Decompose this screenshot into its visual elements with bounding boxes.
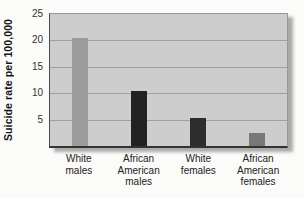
x-label-white-males: White males [49, 153, 109, 188]
x-label-text: African American females [233, 153, 283, 188]
x-axis-category-labels: White malesAfrican American malesWhite f… [49, 153, 288, 188]
y-tick-label-5: 5 [13, 114, 43, 126]
y-tick-label-25: 25 [13, 8, 43, 20]
bar-white-males [72, 38, 88, 146]
y-tick-label-20: 20 [13, 34, 43, 46]
y-axis-title: Suicide rate per 100,000 [1, 10, 15, 150]
plot-area [49, 13, 288, 148]
x-label-white-females: White females [169, 153, 229, 188]
suicide-rate-bar-chart: Suicide rate per 100,000 252015105 White… [0, 0, 304, 198]
bar-african-american-males [131, 91, 147, 146]
bar-white-females [190, 118, 206, 146]
x-label-text: African American males [114, 153, 164, 188]
x-label-african-american-females: African American females [228, 153, 288, 188]
x-label-text: White females [173, 153, 223, 188]
y-tick-label-10: 10 [13, 87, 43, 99]
x-label-african-american-males: African American males [109, 153, 169, 188]
bar-african-american-females [249, 133, 265, 146]
y-tick-label-15: 15 [13, 61, 43, 73]
x-label-text: White males [54, 153, 104, 188]
